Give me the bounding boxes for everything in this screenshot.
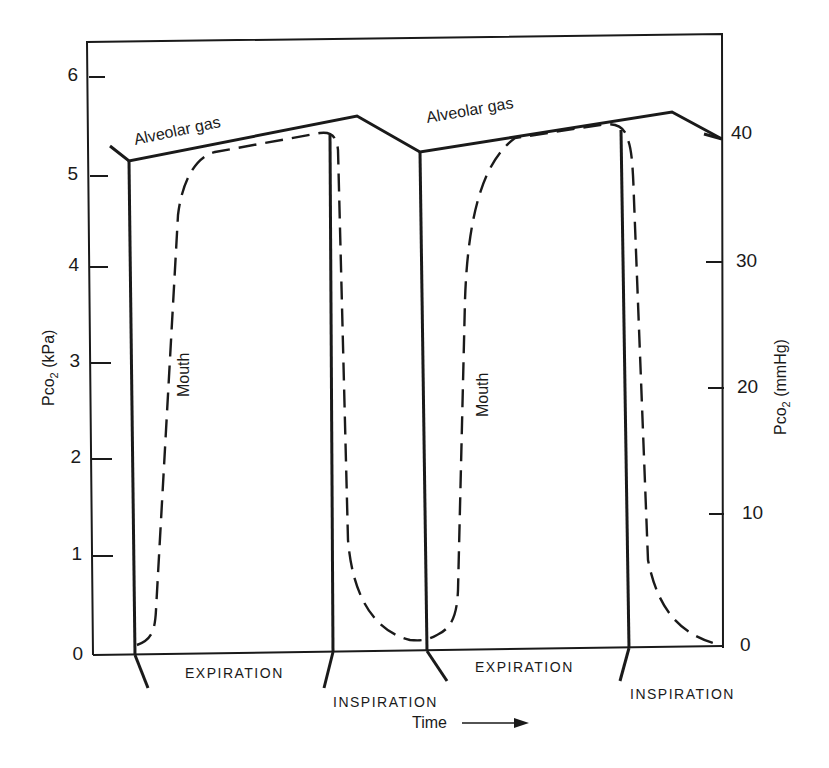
left-tick-2: 2 xyxy=(51,446,81,468)
left-tick-6: 6 xyxy=(48,64,78,86)
mouth-label-1: Mouth xyxy=(175,353,193,397)
right-axis-title: Pco2 (mmHg) xyxy=(772,339,792,435)
pco2-chart xyxy=(0,0,829,768)
left-tick-5: 5 xyxy=(48,163,78,185)
phase-inspiration-2: INSPIRATION xyxy=(630,686,735,702)
phase-expiration-1: EXPIRATION xyxy=(185,665,284,681)
right-tick-0: 0 xyxy=(740,634,751,656)
left-axis-ticks xyxy=(89,77,113,556)
left-axis-title: Pco2 (kPa) xyxy=(40,330,60,406)
alveolar-gas-line xyxy=(110,112,722,688)
left-tick-0: 0 xyxy=(53,643,83,665)
time-axis-label: Time xyxy=(412,714,447,732)
time-arrow xyxy=(462,718,529,728)
right-axis-ticks xyxy=(706,262,724,514)
left-tick-4: 4 xyxy=(49,254,79,276)
right-tick-20: 20 xyxy=(737,376,758,398)
right-tick-30: 30 xyxy=(736,250,757,272)
mouth-dashed-line xyxy=(137,124,720,645)
left-tick-1: 1 xyxy=(52,543,82,565)
phase-expiration-2: EXPIRATION xyxy=(475,659,574,675)
right-tick-10: 10 xyxy=(742,502,763,524)
phase-inspiration-1: INSPIRATION xyxy=(333,694,438,710)
right-tick-40: 40 xyxy=(731,122,752,144)
mouth-label-2: Mouth xyxy=(474,373,492,417)
